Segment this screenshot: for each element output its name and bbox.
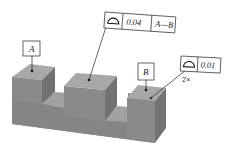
fcf-right-tolerance: 0.01 [200, 60, 215, 71]
part-illustration: A B 0.04 A—B 0.01 2× [0, 0, 232, 163]
left-block-front [12, 77, 42, 103]
right-block-front [127, 98, 155, 143]
datum-b-label: B [143, 67, 149, 77]
gdt-diagram: A B 0.04 A—B 0.01 2× [0, 0, 232, 163]
datum-a-label: A [28, 44, 35, 54]
datum-b-dot [145, 89, 148, 92]
fcf-center-leader [89, 27, 106, 80]
fcf-center-dot [88, 79, 91, 82]
fcf-center-tolerance: 0.04 [126, 17, 142, 28]
fcf-right-multiplier: 2× [182, 75, 191, 84]
fcf-right: 0.01 [180, 56, 221, 73]
fcf-right-dot [150, 97, 153, 100]
fcf-right-leader [151, 70, 186, 98]
center-block-front [64, 86, 105, 121]
datum-a-dot [31, 70, 34, 73]
fcf-center: 0.04 A—B [104, 12, 176, 33]
fcf-center-datum-ref: A—B [154, 18, 174, 29]
